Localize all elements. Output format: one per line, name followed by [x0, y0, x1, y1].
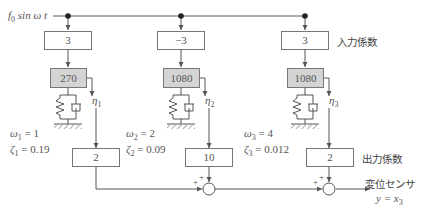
output-eq-subscript: 3	[399, 198, 403, 207]
spring-damper-1	[54, 88, 82, 124]
plus-sign-1b: +	[199, 172, 204, 182]
zeta-param-2: ζ2 = 0.09	[126, 143, 165, 158]
omega-value: = 1	[22, 127, 39, 139]
omega-param-2: ω2 = 2	[126, 127, 155, 142]
output-coef-box-3: 2	[306, 148, 354, 167]
sensor-label: 変位センサ	[365, 176, 415, 191]
eta-label-2: η2	[205, 94, 214, 109]
omega-symbol: ω	[244, 127, 252, 139]
spring-damper-3	[291, 88, 319, 124]
eta-subscript: 2	[210, 100, 214, 109]
modal-mass-box-1: 270	[50, 68, 87, 88]
zeta-param-1: ζ1 = 0.19	[10, 143, 49, 158]
plus-sign-1a: +	[193, 177, 198, 187]
omega-symbol: ω	[10, 127, 18, 139]
omega-value: = 4	[256, 127, 273, 139]
omega-value: = 2	[138, 127, 155, 139]
input-coef-box-3: 3	[281, 31, 329, 50]
eta-label-1: η1	[92, 94, 101, 109]
omega-param-1: ω1 = 1	[10, 127, 39, 142]
output-coef-box-1: 2	[72, 148, 120, 167]
output-equation: y = x3	[376, 192, 403, 207]
modal-mass-box-3: 1080	[287, 68, 324, 88]
input-signal-label: f0 sin ω t	[8, 9, 47, 24]
output-coef-box-2: 10	[185, 148, 233, 167]
zeta-param-3: ζ3 = 0.012	[244, 143, 289, 158]
output-coef-label: 出力係数	[362, 151, 402, 166]
spring-damper-2	[167, 88, 195, 124]
sin-term: sin ω t	[15, 9, 47, 21]
eta-label-3: η3	[329, 94, 338, 109]
input-coef-label: 入力係数	[337, 34, 377, 49]
plus-sign-2a: +	[313, 177, 318, 187]
input-coef-box-1: 3	[44, 31, 92, 50]
zeta-value: = 0.09	[134, 143, 165, 155]
eta-subscript: 1	[97, 100, 101, 109]
omega-symbol: ω	[126, 127, 134, 139]
modal-mass-box-2: 1080	[163, 68, 200, 88]
eta-subscript: 3	[334, 100, 338, 109]
zeta-value: = 0.012	[252, 143, 288, 155]
input-coef-box-2: −3	[157, 31, 205, 50]
output-eq-text: y = x	[376, 192, 399, 204]
omega-param-3: ω3 = 4	[244, 127, 273, 142]
zeta-value: = 0.19	[18, 143, 49, 155]
plus-sign-2b: +	[319, 172, 324, 182]
